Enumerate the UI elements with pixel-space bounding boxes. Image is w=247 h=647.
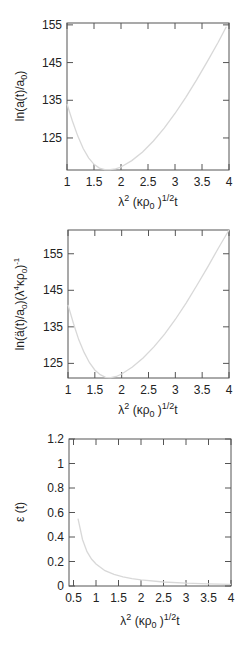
x-tick-label: 0.5 <box>65 591 82 605</box>
plot-frame <box>69 439 231 586</box>
x-tick-label: 1.5 <box>110 591 127 605</box>
x-tick-label: 2.5 <box>155 591 172 605</box>
y-tick-label: 155 <box>43 247 63 261</box>
x-tick-label: 1.5 <box>86 175 103 189</box>
x-tick-label: 3.5 <box>200 591 217 605</box>
x-tick-label: 2.5 <box>140 175 157 189</box>
x-tick-label: 3 <box>172 383 179 397</box>
y-axis-title: ε (t) <box>13 502 27 522</box>
x-tick-label: 3 <box>183 591 190 605</box>
y-tick-label: 0 <box>57 579 64 593</box>
plot-frame <box>67 23 229 170</box>
y-tick-label: 0.6 <box>47 506 64 520</box>
x-tick-label: 2.5 <box>140 383 157 397</box>
y-tick-label: 155 <box>42 18 62 32</box>
axis-ticks <box>69 439 231 586</box>
y-tick-label: 125 <box>42 131 62 145</box>
x-axis-title: λ2 (κρ0 )1/2t <box>120 612 180 630</box>
y-tick-label: 0.8 <box>47 481 64 495</box>
y-tick-label: 1.2 <box>47 432 64 446</box>
y-tick-label: 0.4 <box>47 530 64 544</box>
x-tick-label: 1 <box>64 175 71 189</box>
tick-labels: 11.522.533.54125135145155 <box>43 247 233 397</box>
x-axis-title: λ2 (κρ0 )1/2t <box>118 193 178 211</box>
y-tick-label: 0.2 <box>47 555 64 569</box>
y-axis-title: ln(ä(t)/a0)(λ4κρ0)-1 <box>12 257 29 350</box>
x-axis-title: λ2 (κρ0 )1/2t <box>118 401 178 419</box>
panel-ln-a: 11.522.533.54125135145155 ln(a(t)/a0) λ2… <box>0 0 247 215</box>
x-tick-label: 1 <box>93 591 100 605</box>
data-curve <box>67 27 226 170</box>
axis-ticks <box>67 23 229 170</box>
y-tick-label: 145 <box>43 283 63 297</box>
axis-ticks <box>68 230 229 378</box>
x-tick-label: 1.5 <box>86 383 103 397</box>
chart-ln-a: 11.522.533.54125135145155 ln(a(t)/a0) λ2… <box>0 0 247 215</box>
x-tick-label: 2 <box>118 383 125 397</box>
y-tick-label: 135 <box>43 320 63 334</box>
x-tick-label: 2 <box>138 591 145 605</box>
x-tick-label: 4 <box>226 175 233 189</box>
y-axis-title: ln(a(t)/a0) <box>13 71 29 121</box>
x-tick-label: 2 <box>118 175 125 189</box>
x-tick-label: 1 <box>65 383 72 397</box>
plot-frame <box>68 230 229 378</box>
y-tick-label: 135 <box>42 93 62 107</box>
tick-labels: 11.522.533.54125135145155 <box>42 18 233 189</box>
y-tick-label: 145 <box>42 56 62 70</box>
y-tick-label: 1 <box>57 457 64 471</box>
x-tick-label: 3.5 <box>194 175 211 189</box>
x-tick-label: 4 <box>228 591 235 605</box>
x-tick-label: 3 <box>172 175 179 189</box>
x-tick-label: 4 <box>226 383 233 397</box>
x-tick-label: 3.5 <box>194 383 211 397</box>
tick-labels: 0.511.522.533.5400.20.40.60.811.2 <box>47 432 234 605</box>
data-curve <box>68 230 229 378</box>
data-curve <box>78 519 231 585</box>
y-tick-label: 125 <box>43 356 63 370</box>
